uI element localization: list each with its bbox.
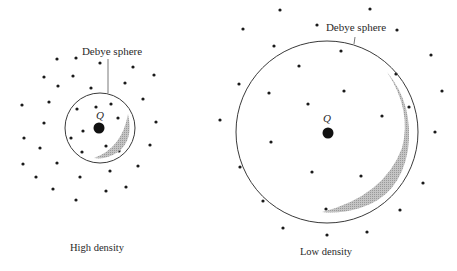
particle	[51, 187, 54, 190]
particle	[433, 130, 436, 133]
particle	[368, 7, 371, 10]
particle	[241, 27, 244, 30]
particle	[108, 169, 111, 172]
particle	[339, 49, 342, 52]
particle	[278, 8, 281, 11]
particle	[47, 100, 50, 103]
particle	[238, 165, 241, 168]
leader-line-low-density	[354, 37, 355, 44]
particle	[281, 226, 284, 229]
particle	[21, 162, 24, 165]
particle	[22, 136, 25, 139]
particle	[38, 146, 41, 149]
particle	[342, 89, 345, 92]
panel-low-density: Q Debye sphere Low density	[218, 7, 443, 257]
charge-label-low-density: Q	[323, 112, 331, 124]
particle	[154, 120, 157, 123]
particles-low-density	[218, 7, 443, 236]
particle	[81, 129, 84, 132]
particle	[109, 102, 112, 105]
particle	[56, 84, 59, 87]
particle	[55, 161, 58, 164]
particle	[325, 233, 328, 236]
particle	[269, 140, 272, 143]
particle	[380, 114, 383, 117]
particle	[398, 208, 401, 211]
particle	[272, 44, 275, 47]
particle	[34, 175, 37, 178]
particle	[237, 82, 240, 85]
particle	[365, 230, 368, 233]
caption-low-density: Low density	[300, 246, 353, 257]
particle	[104, 144, 107, 147]
particle	[71, 74, 74, 77]
panel-high-density: Q Debye sphere High density	[20, 45, 157, 253]
test-charge-high-density	[94, 123, 105, 134]
particle	[306, 102, 309, 105]
particle	[315, 23, 318, 26]
particle	[267, 91, 270, 94]
particle	[98, 61, 101, 64]
debye-sphere-label-high-density: Debye sphere	[82, 45, 142, 57]
particle	[395, 28, 398, 31]
particle	[297, 64, 300, 67]
particle	[136, 164, 139, 167]
particle	[42, 121, 45, 124]
particle	[310, 170, 313, 173]
particles-high-density	[20, 56, 157, 201]
debye-sphere-diagram: Q Debye sphere High density Q Debye sphe…	[0, 0, 457, 271]
particle	[80, 150, 83, 153]
particle	[123, 81, 126, 84]
particle	[74, 198, 77, 201]
particle	[359, 174, 362, 177]
particle	[218, 118, 221, 121]
particle	[261, 199, 264, 202]
particle	[89, 86, 92, 89]
particle	[69, 136, 72, 139]
particle	[131, 65, 134, 68]
particle	[75, 107, 78, 110]
debye-sphere-label-low-density: Debye sphere	[326, 21, 386, 33]
particle	[124, 185, 127, 188]
charge-label-high-density: Q	[96, 109, 104, 121]
particle	[74, 56, 77, 59]
particle	[421, 181, 424, 184]
particle	[407, 105, 410, 108]
test-charge-low-density	[323, 128, 334, 139]
particle	[429, 53, 432, 56]
particle	[42, 75, 45, 78]
particle	[104, 189, 107, 192]
particle	[148, 143, 151, 146]
particle	[324, 207, 327, 210]
particle	[141, 97, 144, 100]
particle	[152, 73, 155, 76]
particle	[55, 57, 58, 60]
particle	[440, 89, 443, 92]
particle	[20, 103, 23, 106]
particle	[116, 116, 119, 119]
caption-high-density: High density	[70, 242, 125, 253]
particle	[78, 175, 81, 178]
